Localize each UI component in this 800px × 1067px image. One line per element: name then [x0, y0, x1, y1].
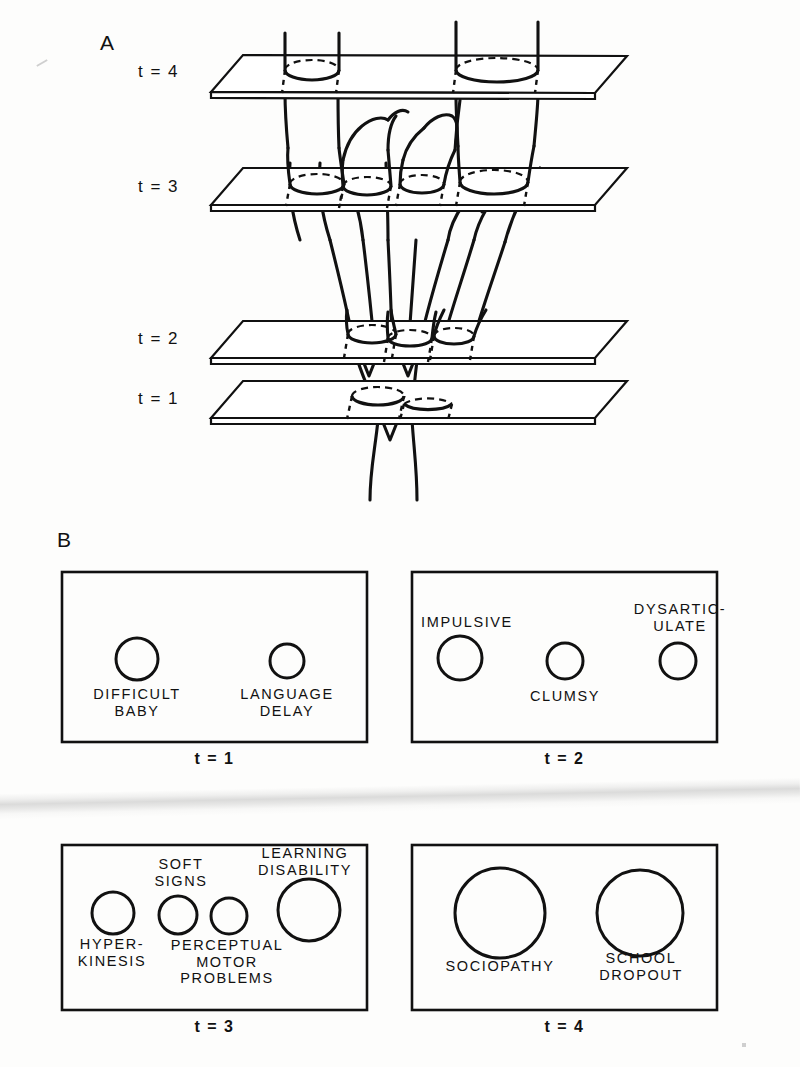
node-circle-perceptual-motor-problems	[211, 898, 247, 934]
node-circle-soft-signs	[159, 896, 197, 934]
node-label-school-dropout: SCHOOL DROPOUT	[599, 950, 683, 983]
node-circle-impulsive	[438, 636, 482, 680]
node-label-impulsive: IMPULSIVE	[421, 614, 513, 631]
node-circle-school-dropout	[597, 870, 683, 956]
node-label-learning-disability: LEARNING DISABILITY	[258, 845, 352, 878]
node-circle-sociopathy	[455, 868, 545, 958]
node-label-perceptual-motor-problems: PERCEPTUAL MOTOR PROBLEMS	[171, 937, 284, 987]
box-caption-t1: t = 1	[62, 750, 367, 768]
node-label-clumsy: CLUMSY	[530, 688, 600, 705]
node-circle-hyperkinesis	[92, 892, 134, 934]
node-circle-learning-disability	[278, 879, 340, 941]
node-label-dysarticulate: DYSARTIC- ULATE	[634, 601, 726, 634]
box-caption-t3: t = 3	[62, 1018, 367, 1036]
node-circle-dysarticulate	[660, 643, 696, 679]
box-caption-t2: t = 2	[412, 750, 717, 768]
box-caption-t4: t = 4	[412, 1018, 717, 1036]
node-label-hyperkinesis: HYPER- KINESIS	[78, 936, 146, 969]
node-circle-clumsy	[547, 643, 583, 679]
box-t2-frame	[412, 572, 717, 742]
node-label-sociopathy: SOCIOPATHY	[446, 958, 555, 975]
node-circle-language-delay	[270, 644, 304, 678]
node-label-language-delay: LANGUAGE DELAY	[240, 686, 333, 719]
node-label-soft-signs: SOFT SIGNS	[154, 856, 207, 889]
node-label-difficult-baby: DIFFICULT BABY	[93, 686, 180, 719]
node-circle-difficult-baby	[116, 638, 158, 680]
scan-speck-2	[742, 1043, 746, 1047]
